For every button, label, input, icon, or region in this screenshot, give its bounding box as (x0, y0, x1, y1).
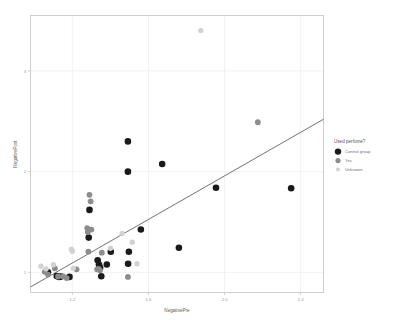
data-point (85, 249, 91, 255)
data-point (198, 28, 203, 33)
x-tick-label: 1.6 (146, 297, 152, 302)
data-point (125, 274, 131, 280)
data-point (98, 273, 105, 280)
data-point (97, 267, 103, 273)
data-point (255, 119, 261, 125)
data-point (213, 184, 220, 191)
data-point (70, 249, 75, 254)
data-point (71, 266, 76, 271)
legend-item-label[interactable]: Unknown (345, 167, 363, 172)
legend-title: Used perfume? (334, 139, 366, 144)
data-point (86, 207, 93, 214)
scatter-plot: 1.21.62.02.4 123 NegativePre NegativePos… (0, 0, 393, 325)
x-tick-label: 1.2 (69, 297, 75, 302)
data-point (55, 273, 61, 279)
x-axis-label: NegativePre (164, 308, 190, 313)
data-point (64, 275, 70, 281)
chart-canvas: 1.21.62.02.4 123 NegativePre NegativePos… (0, 0, 393, 325)
legend-item-label[interactable]: Yes (345, 158, 352, 163)
data-point (134, 261, 139, 266)
data-point (120, 231, 125, 236)
data-point (43, 266, 48, 271)
data-point (125, 168, 132, 175)
data-point (176, 244, 183, 251)
legend-marker (336, 168, 340, 172)
data-point (99, 250, 105, 256)
legend-marker (335, 158, 340, 163)
data-point (138, 226, 145, 233)
legend-marker (335, 148, 341, 154)
data-point (88, 227, 94, 233)
data-point (130, 239, 135, 244)
data-point (38, 264, 43, 269)
legend-item-label[interactable]: Control group (345, 149, 371, 154)
data-point (87, 192, 93, 198)
data-point (159, 161, 166, 168)
data-point (288, 185, 295, 192)
data-point (108, 245, 113, 250)
data-point (88, 198, 94, 204)
data-point (125, 138, 132, 145)
data-point (125, 260, 132, 267)
x-tick-label: 2.0 (222, 297, 228, 302)
data-point (85, 234, 92, 241)
data-point (103, 261, 110, 268)
data-point (126, 248, 133, 255)
x-tick-label: 2.4 (298, 297, 304, 302)
data-point (45, 272, 51, 278)
data-point (51, 262, 56, 267)
y-axis-label: NegativePost (13, 140, 18, 168)
